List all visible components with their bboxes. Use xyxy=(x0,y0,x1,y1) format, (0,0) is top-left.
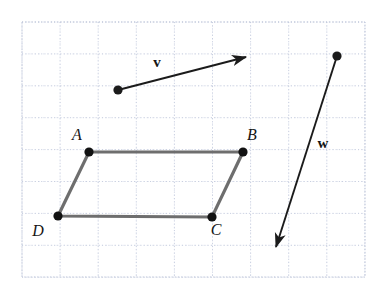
vertex-label-d: D xyxy=(31,222,44,239)
vertex-label-b: B xyxy=(247,126,257,143)
vector-figure: ABCDvw xyxy=(0,0,385,291)
vertex-label-a: A xyxy=(71,126,82,143)
vertex-dot-a xyxy=(84,147,93,156)
vector-tail-dot-w xyxy=(332,51,341,60)
vertex-dot-d xyxy=(53,211,62,220)
vector-label-v: v xyxy=(153,54,161,70)
vertex-label-c: C xyxy=(211,221,222,238)
vector-label-w: w xyxy=(318,135,329,151)
figure-canvas: ABCDvw xyxy=(0,0,385,291)
vertex-dot-b xyxy=(238,147,247,156)
vector-tail-dot-v xyxy=(113,85,122,94)
